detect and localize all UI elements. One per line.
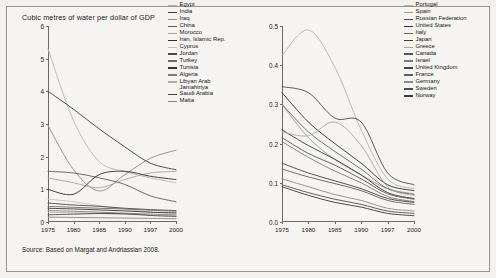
legend-item[interactable]: Iraq (168, 16, 230, 23)
legend-left: EgyptIndiaIraqChinaMoroccoIran, Islamic … (168, 2, 230, 105)
y-tick-label: 0.2 (269, 140, 278, 147)
legend-item[interactable]: Cyprus (168, 44, 230, 51)
legend-swatch (404, 88, 413, 89)
series-line (282, 30, 414, 189)
series-line (48, 217, 176, 219)
legend-label: Russian Federation (416, 16, 481, 22)
y-tick-label: 0.0 (269, 219, 278, 226)
legend-swatch (404, 47, 413, 48)
legend-label: Iraq (180, 16, 231, 22)
legend-label: Greece (416, 44, 481, 50)
legend-item[interactable]: Jordan (168, 51, 230, 58)
legend-item[interactable]: Iran, Islamic Rep. (168, 37, 230, 44)
series-line (48, 91, 176, 169)
legend-swatch (168, 47, 177, 48)
legend-item[interactable]: Norway (404, 93, 480, 100)
y-tick-label: 2 (40, 153, 44, 160)
legend-label: Japan (416, 37, 481, 43)
legend-label: Morocco (180, 30, 231, 36)
legend-label: Israel (416, 58, 481, 64)
legend-swatch (168, 40, 177, 41)
series-line (282, 169, 414, 204)
series-lines-right (282, 26, 414, 222)
x-tick-mark (176, 221, 177, 224)
legend-label: Algeria (180, 72, 231, 78)
legend-item[interactable]: Turkey (168, 58, 230, 65)
legend-label: United States (416, 23, 481, 29)
x-tick-label: 1985 (328, 226, 342, 233)
legend-swatch (404, 60, 413, 61)
x-tick-label: 1975 (41, 226, 55, 233)
legend-label: Cyprus (180, 44, 231, 50)
legend-swatch (168, 5, 177, 6)
x-tick-label: 1997 (381, 226, 395, 233)
legend-label: India (180, 9, 231, 15)
source-note: Source: Based on Margat and Andriassian … (22, 246, 160, 253)
legend-swatch (168, 12, 177, 13)
legend-label: United Kingdom (416, 65, 481, 71)
legend-swatch (404, 95, 413, 96)
figure-container: Cubic metres of water per dollar of GDP … (0, 0, 496, 278)
legend-label: Turkey (180, 58, 231, 64)
series-line (282, 130, 414, 199)
legend-label: Malta (180, 98, 231, 104)
legend-swatch (168, 74, 177, 75)
x-tick-label: 1990 (354, 226, 368, 233)
legend-item[interactable]: Malta (168, 98, 230, 105)
legend-swatch (168, 101, 177, 102)
x-tick-label: 1980 (67, 226, 81, 233)
x-tick-label: 2000 (169, 226, 183, 233)
legend-label: Italy (416, 30, 481, 36)
series-lines-left (48, 26, 176, 222)
x-tick-label: 1985 (92, 226, 106, 233)
legend-item[interactable]: Egypt (168, 2, 230, 9)
legend-swatch (404, 67, 413, 68)
legend-swatch (404, 81, 413, 82)
legend-label: Libyan Arab Jamahiriya (180, 79, 231, 91)
legend-label: Norway (416, 93, 481, 99)
x-tick-label: 1975 (275, 226, 289, 233)
y-tick-label: 0.4 (269, 62, 278, 69)
series-line (282, 163, 414, 202)
legend-swatch (404, 19, 413, 20)
legend-label: Spain (416, 9, 481, 15)
y-tick-label: 0.3 (269, 101, 278, 108)
legend-swatch (404, 5, 413, 6)
legend-right: PortugalSpainRussian FederationUnited St… (404, 2, 480, 100)
legend-swatch (404, 40, 413, 41)
legend-swatch (168, 26, 177, 27)
y-tick-label: 6 (40, 23, 44, 30)
legend-item[interactable]: Libyan Arab Jamahiriya (168, 79, 230, 91)
legend-swatch (168, 67, 177, 68)
y-tick-label: 5 (40, 55, 44, 62)
legend-label: Jordan (180, 51, 231, 57)
y-tick-label: 4 (40, 88, 44, 95)
series-line (282, 104, 414, 193)
legend-swatch (168, 94, 177, 95)
legend-swatch (168, 33, 177, 34)
y-tick-label: 3 (40, 121, 44, 128)
y-tick-label: 0 (40, 219, 44, 226)
legend-item[interactable]: Saudi Arabia (168, 91, 230, 98)
x-tick-label: 1997 (144, 226, 158, 233)
legend-label: France (416, 72, 481, 78)
legend-label: China (180, 23, 231, 29)
x-tick-label: 1980 (302, 226, 316, 233)
legend-swatch (168, 53, 177, 54)
legend-swatch (168, 60, 177, 61)
y-tick-label: 0.5 (269, 23, 278, 30)
page-title: Cubic metres of water per dollar of GDP (22, 13, 155, 22)
legend-label: Iran, Islamic Rep. (180, 37, 231, 43)
series-line (48, 171, 176, 201)
x-tick-mark (414, 221, 415, 224)
series-line (48, 171, 176, 195)
legend-label: Sweden (416, 86, 481, 92)
legend-item[interactable]: India (168, 9, 230, 16)
legend-swatch (404, 53, 413, 54)
legend-swatch (404, 74, 413, 75)
legend-item[interactable]: Tunisia (168, 65, 230, 72)
series-line (282, 138, 414, 200)
legend-swatch (404, 33, 413, 34)
plot-area-right: 0.00.10.20.30.40.5 197519801985199019972… (282, 26, 414, 222)
legend-swatch (404, 26, 413, 27)
